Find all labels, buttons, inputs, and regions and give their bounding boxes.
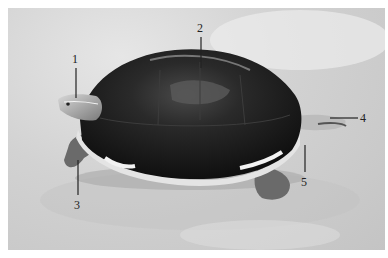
callout-label-2: 2 (197, 22, 203, 34)
callout-label-3: 3 (74, 199, 80, 211)
callout-label-5: 5 (301, 176, 307, 188)
callout-lines (8, 8, 385, 250)
turtle-photo (8, 8, 385, 250)
callout-label-1: 1 (72, 53, 78, 65)
callout-label-4: 4 (360, 112, 366, 124)
